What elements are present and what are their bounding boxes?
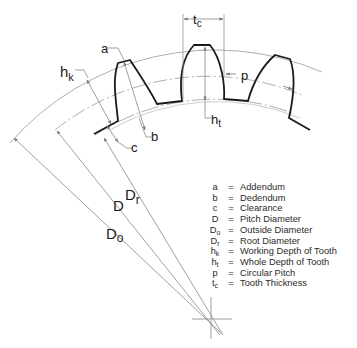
legend-symbol: Do — [208, 225, 222, 236]
gear-drawing: a b c hk tc ht p Dr D Do — [0, 0, 357, 348]
legend-row: D=Pitch Diameter — [208, 214, 337, 225]
legend-row: hk=Working Depth of Tooth — [208, 246, 337, 257]
legend: a=Addendumb=Dedendumc=ClearanceD=Pitch D… — [208, 182, 337, 289]
root-circle-arc — [95, 99, 292, 135]
legend-meaning: Addendum — [240, 182, 285, 193]
working-depth-dimension — [87, 80, 111, 124]
addendum-dedendum-dimension — [124, 62, 145, 130]
legend-equals: = — [222, 225, 240, 236]
legend-row: ht=Whole Depth of Tooth — [208, 257, 337, 268]
legend-row: p=Circular Pitch — [208, 268, 337, 279]
legend-symbol: p — [208, 268, 222, 279]
gear-nomenclature-diagram: a b c hk tc ht p Dr D Do a=Addendumb=Ded… — [0, 0, 357, 348]
pitch-circle-arc — [55, 76, 302, 130]
label-tc: tc — [193, 12, 202, 29]
legend-equals: = — [222, 268, 240, 279]
legend-meaning: Dedendum — [240, 193, 285, 204]
legend-symbol: Dr — [208, 236, 222, 247]
legend-symbol: D — [208, 214, 222, 225]
gear-tooth-outline — [94, 45, 310, 134]
legend-symbol: a — [208, 182, 222, 193]
legend-equals: = — [222, 257, 240, 268]
label-ht: ht — [211, 112, 221, 129]
legend-row: Do=Outside Diameter — [208, 225, 337, 236]
legend-symbol: tc — [208, 278, 222, 289]
label-b: b — [151, 129, 158, 144]
legend-equals: = — [222, 203, 240, 214]
legend-meaning: Whole Depth of Tooth — [240, 257, 329, 268]
legend-equals: = — [222, 278, 240, 289]
label-Do: Do — [106, 225, 124, 245]
legend-meaning: Pitch Diameter — [240, 214, 301, 225]
legend-row: a=Addendum — [208, 182, 337, 193]
label-hk: hk — [60, 63, 74, 83]
legend-symbol: c — [208, 203, 222, 214]
legend-meaning: Clearance — [240, 203, 282, 214]
legend-equals: = — [222, 246, 240, 257]
legend-symbol: b — [208, 193, 222, 204]
legend-meaning: Circular Pitch — [240, 268, 295, 279]
label-p: p — [241, 68, 248, 83]
legend-equals: = — [222, 193, 240, 204]
legend-symbol: ht — [208, 257, 222, 268]
label-c: c — [131, 140, 138, 155]
a-leader — [108, 48, 124, 60]
legend-row: c=Clearance — [208, 203, 337, 214]
label-Dr: Dr — [125, 186, 140, 207]
legend-equals: = — [222, 214, 240, 225]
hk-leader — [75, 70, 88, 78]
label-a: a — [101, 41, 109, 56]
label-D: D — [113, 197, 124, 214]
legend-meaning: Outside Diameter — [240, 225, 312, 236]
legend-meaning: Tooth Thickness — [240, 278, 307, 289]
legend-equals: = — [222, 236, 240, 247]
legend-row: b=Dedendum — [208, 193, 337, 204]
legend-meaning: Working Depth of Tooth — [240, 246, 337, 257]
legend-symbol: hk — [208, 246, 222, 257]
legend-equals: = — [222, 182, 240, 193]
legend-row: tc=Tooth Thickness — [208, 278, 337, 289]
legend-meaning: Root Diameter — [240, 236, 300, 247]
legend-row: Dr=Root Diameter — [208, 236, 337, 247]
pitch-diameter-line — [57, 131, 220, 335]
